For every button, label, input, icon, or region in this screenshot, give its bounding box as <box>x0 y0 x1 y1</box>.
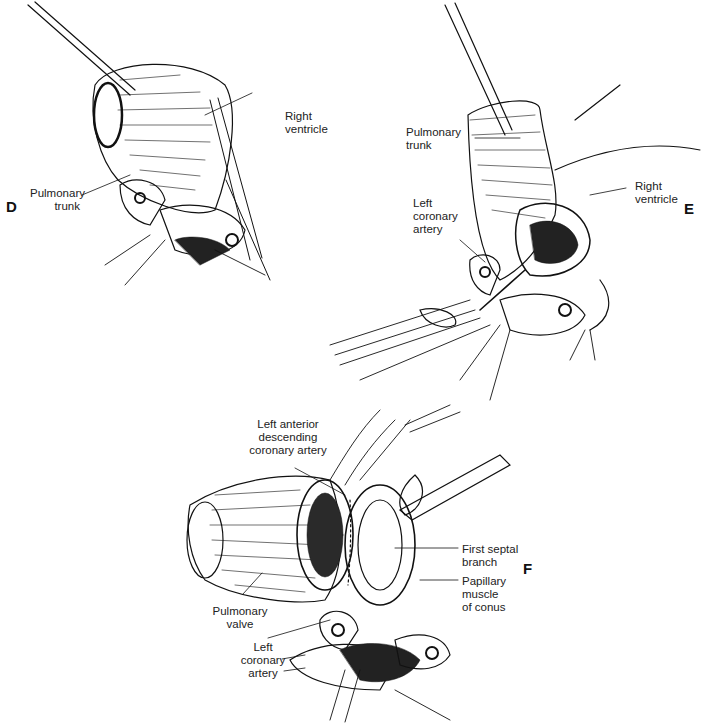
panel-label-d: D <box>6 198 17 215</box>
label-e-pulmonary-trunk: Pulmonary trunk <box>406 126 461 152</box>
panel-label-f: F <box>523 560 532 577</box>
label-f-left-coronary-artery: Left coronary artery <box>238 641 288 680</box>
panel-label-e: E <box>684 200 694 217</box>
label-d-right-ventricle: Right ventricle <box>285 110 328 136</box>
label-f-papillary-muscle: Papillary muscle of conus <box>462 575 506 614</box>
label-f-lad: Left anterior descending coronary artery <box>238 418 338 457</box>
label-e-left-coronary-artery: Left coronary artery <box>413 197 458 236</box>
label-f-pulmonary-valve: Pulmonary valve <box>205 605 275 631</box>
label-f-first-septal-branch: First septal branch <box>462 543 518 569</box>
label-d-pulmonary-trunk: Pulmonary trunk <box>30 187 80 213</box>
label-e-right-ventricle: Right ventricle <box>635 180 678 206</box>
surgical-illustration <box>0 0 716 726</box>
panel-d-drawing <box>28 2 270 285</box>
